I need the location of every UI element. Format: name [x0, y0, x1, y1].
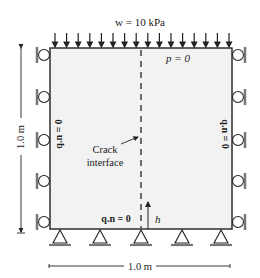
width-dimension: 1.0 m [49, 261, 230, 272]
top-bc-label: p = 0 [165, 52, 190, 64]
pin-supports [49, 230, 232, 245]
right-bc-label: q.n = 0 [220, 119, 231, 148]
height-dimension: 1.0 m [15, 48, 26, 233]
bottom-bc-label: q.n = 0 [101, 213, 130, 224]
load-label: w = 10 kPa [115, 16, 165, 28]
crack-label-line1: Crack [92, 144, 118, 155]
distributed-load-arrows [53, 33, 232, 47]
width-dim-label: 1.0 m [128, 261, 152, 272]
left-bc-label: q.n = 0 [53, 119, 64, 148]
height-dim-label: 1.0 m [15, 125, 26, 149]
crack-height-label: h [155, 213, 161, 225]
poroelastic-domain-diagram: w = 10 kPa p = 0 q.n = 0 q.n = 0 Crack i… [0, 0, 260, 278]
crack-label-line2: interface [87, 157, 124, 168]
